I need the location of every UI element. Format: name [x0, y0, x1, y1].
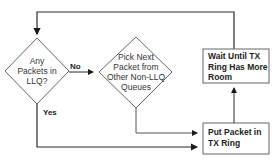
label-line: Packets in	[5, 66, 69, 76]
label-line: Room	[208, 72, 270, 83]
box-wait-tx-label: Wait Until TX Ring Has More Room	[208, 51, 270, 83]
label-line: Queues	[95, 82, 177, 92]
label-line: Packet from	[95, 62, 177, 72]
label-line: Ring Has More	[208, 62, 270, 73]
label-line: Put Packet in	[208, 127, 270, 138]
box-put-packet-label: Put Packet in TX Ring	[208, 127, 270, 148]
edge-label-yes: Yes	[43, 108, 57, 117]
label-line: Any	[5, 56, 69, 66]
label-line: TX Ring	[208, 138, 270, 149]
edge-yes	[37, 104, 197, 147]
edge-pick-to-put	[136, 108, 197, 133]
label-line: LLQ?	[5, 76, 69, 86]
label-line: Wait Until TX	[208, 51, 270, 62]
edge-label-no: No	[70, 62, 81, 71]
label-line: Pick Next	[95, 52, 177, 62]
process-pick-next-label: Pick Next Packet from Other Non-LLQ Queu…	[95, 52, 177, 92]
decision-llq-label: Any Packets in LLQ?	[5, 56, 69, 86]
label-line: Other Non-LLQ	[95, 72, 177, 82]
